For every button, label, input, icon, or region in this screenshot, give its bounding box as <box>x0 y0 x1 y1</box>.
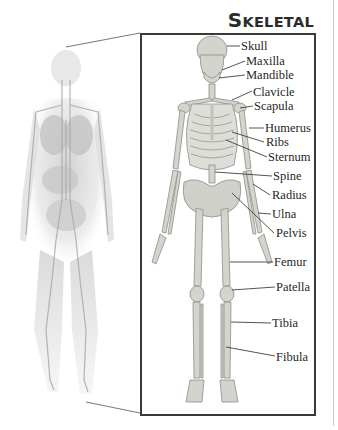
label-sternum: Sternum <box>268 150 310 164</box>
label-ulna: Ulna <box>272 207 296 221</box>
label-ribs: Ribs <box>266 135 289 149</box>
label-scapula: Scapula <box>254 99 294 113</box>
label-fibula: Fibula <box>276 350 308 364</box>
label-tibia: Tibia <box>272 316 298 330</box>
label-pelvis: Pelvis <box>276 226 307 240</box>
label-mandible: Mandible <box>246 68 294 82</box>
label-spine: Spine <box>273 169 301 183</box>
label-radius: Radius <box>272 188 307 202</box>
label-clavicle: Clavicle <box>253 85 295 99</box>
label-patella: Patella <box>276 280 310 294</box>
label-maxilla: Maxilla <box>246 54 285 68</box>
label-skull: Skull <box>241 39 267 53</box>
label-femur: Femur <box>274 255 307 269</box>
label-humerus: Humerus <box>265 121 311 135</box>
